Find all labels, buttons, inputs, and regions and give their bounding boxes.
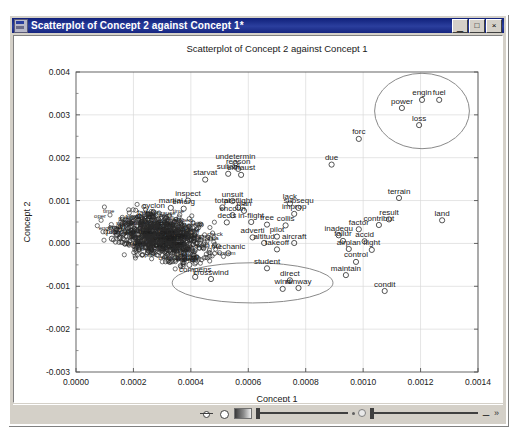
data-point-label: due — [325, 153, 339, 162]
medium-dot-icon — [358, 409, 366, 417]
data-point[interactable] — [280, 286, 285, 291]
y-tick-label: 0.000 — [49, 238, 71, 248]
window-controls: _ □ × — [452, 19, 502, 33]
scatterplot[interactable]: Scatterplot of Concept 2 against Concept… — [14, 36, 502, 402]
data-point-label: unit — [141, 229, 151, 235]
expand-icon[interactable]: » — [494, 409, 499, 418]
labelled-points: enginfuelpowerlossforcdueundeterminreaso… — [106, 88, 450, 293]
data-point — [122, 253, 126, 257]
data-point[interactable] — [382, 288, 387, 293]
data-point[interactable] — [356, 136, 361, 141]
data-point[interactable] — [239, 172, 244, 177]
data-point-label: test — [133, 241, 143, 247]
data-point — [102, 238, 106, 242]
data-point-label: exhaust — [227, 163, 256, 172]
data-point[interactable] — [396, 195, 401, 200]
minimize-button[interactable]: _ — [452, 19, 468, 33]
chart-title: Scatterplot of Concept 2 against Concept… — [186, 43, 367, 54]
data-point[interactable] — [399, 105, 404, 110]
data-point[interactable] — [440, 218, 445, 223]
data-point[interactable] — [419, 97, 424, 102]
plot-statusbar: ⚊ » — [13, 404, 503, 421]
upper-right-cluster-ellipse — [375, 73, 470, 148]
y-axis-label: Concept 2 — [22, 201, 32, 242]
data-point-label: oper — [94, 213, 106, 219]
data-point[interactable] — [224, 220, 229, 225]
window-titlebar[interactable]: Scatterplot of Concept 2 against Concept… — [12, 18, 504, 33]
slider-thumb[interactable] — [370, 408, 374, 419]
dense-cluster: failpilotsystempartrateinspectoperfuelte… — [94, 202, 235, 271]
data-point[interactable] — [208, 276, 213, 281]
y-tick-label: -0.001 — [46, 281, 70, 291]
close-icon: × — [487, 21, 501, 31]
data-point — [210, 254, 214, 258]
slider-thumb[interactable] — [256, 408, 260, 419]
data-point — [135, 202, 139, 206]
x-tick-label: 0.0012 — [408, 377, 434, 387]
data-point — [127, 208, 131, 212]
x-tick-label: 0.0006 — [235, 377, 261, 387]
circle-select-icon[interactable] — [217, 408, 230, 419]
brightness-slider[interactable] — [370, 408, 478, 419]
contrast-slider[interactable] — [256, 408, 348, 419]
data-point — [212, 220, 216, 224]
data-point-label: condit — [374, 280, 396, 289]
data-point-label: mechanic — [211, 242, 245, 251]
data-point-label: crosswind — [193, 268, 229, 277]
chart-window-icon — [14, 19, 28, 33]
data-point-label: decis — [217, 211, 236, 220]
data-point-label: terrain — [388, 187, 411, 196]
data-point-label: improp — [282, 202, 307, 211]
data-point-label: student — [254, 257, 281, 266]
data-point-label: system — [171, 247, 190, 253]
slider-separator — [352, 409, 366, 417]
x-tick-label: 0.0014 — [465, 377, 491, 387]
y-tick-label: 0.001 — [49, 196, 71, 206]
y-tick-label: -0.003 — [46, 367, 70, 377]
data-point-label: engin — [412, 88, 432, 97]
data-point[interactable] — [369, 247, 374, 252]
maximize-icon: □ — [470, 21, 484, 31]
data-point-label: fuel — [433, 88, 446, 97]
data-point[interactable] — [343, 273, 348, 278]
data-point-label: control — [344, 250, 368, 259]
data-point-label: cyclon — [142, 201, 165, 210]
data-point[interactable] — [203, 177, 208, 182]
data-point-label: power — [391, 97, 413, 106]
statusbar-tools: ⚊ » — [200, 408, 503, 419]
data-point[interactable] — [292, 240, 297, 245]
data-point-label: fuel — [166, 236, 176, 242]
gradient-icon[interactable] — [234, 408, 252, 419]
data-point — [173, 267, 177, 271]
data-point[interactable] — [329, 162, 334, 167]
scatterplot-svg[interactable]: Scatterplot of Concept 2 against Concept… — [14, 36, 502, 403]
data-point-label: air — [117, 222, 126, 231]
data-point-label: pilot — [145, 252, 156, 258]
pan-tool-icon[interactable] — [200, 408, 213, 419]
close-button[interactable]: × — [486, 19, 502, 33]
data-point[interactable] — [274, 247, 279, 252]
data-point-label: tree — [260, 213, 274, 222]
plot-client-area: Scatterplot of Concept 2 against Concept… — [13, 35, 503, 403]
x-tick-label: 0.0004 — [178, 377, 204, 387]
small-dot-icon — [352, 412, 355, 415]
data-point-label: forc — [352, 127, 365, 136]
maximize-button[interactable]: □ — [469, 19, 485, 33]
slider-track — [256, 412, 348, 414]
data-point-label: flight — [363, 238, 381, 247]
plot-window: Scatterplot of Concept 2 against Concept… — [8, 14, 508, 426]
x-tick-label: 0.0002 — [120, 377, 146, 387]
data-point[interactable] — [264, 266, 269, 271]
key-icon[interactable]: ⚊ — [482, 409, 490, 418]
data-point[interactable] — [376, 222, 381, 227]
data-point[interactable] — [249, 219, 254, 224]
data-point-label: pre — [106, 227, 118, 236]
y-tick-label: 0.003 — [49, 110, 71, 120]
data-point-label: land — [435, 209, 450, 218]
y-tick-label: 0.002 — [49, 153, 71, 163]
data-point-label: loss — [412, 114, 426, 123]
data-point-label: takeoff — [265, 238, 290, 247]
data-point-label: collis — [277, 214, 295, 223]
window-title: Scatterplot of Concept 2 against Concept… — [31, 19, 244, 32]
data-point[interactable] — [437, 97, 442, 102]
